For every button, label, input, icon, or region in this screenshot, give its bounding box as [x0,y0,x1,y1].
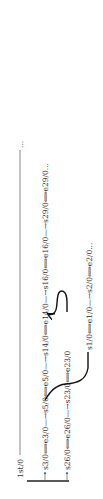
double-arrow-icon: ⟺ [85,266,94,277]
root-label: 1st/0 [16,459,25,478]
double-arrow-icon: ⟺ [63,438,72,449]
node-e2: e2/0... [85,243,94,267]
node-e16: e16/0 [41,236,50,258]
root-row: 1st/0 [16,459,25,478]
arrow-icon: —→ [85,293,94,307]
link-e23-to-s14 [48,291,67,315]
svg-text:s1/0⟺e1/0—→s2/0⟺e2/0...: s1/0⟺e1/0—→s2/0⟺e2/0... [85,243,94,350]
arrow-icon: —→ [63,403,72,417]
row-1: s3/0⟺e3/0—→s5/0⟺e5/0—→s14/0⟺e14/0—→s16/0… [41,163,50,470]
node-s2: s2/0 [85,277,94,293]
diagram-canvas: 1st/0 ... s3/0⟺e3/0—→s5/0⟺e5/0—→s14/0⟺e1… [0,0,103,499]
arrow-icon: —→ [41,413,50,427]
node-e1: e1/0 [85,307,94,324]
root-ellipsis: ... [16,141,25,148]
double-arrow-icon: ⟺ [41,443,50,454]
node-e23: e23/0 [63,350,72,372]
double-arrow-icon: ⟺ [85,323,94,334]
node-s3: s3/0 [41,454,50,470]
node-s23: s23/0 [63,383,72,404]
arrow-icon: —→ [41,289,50,303]
arrow-icon: —→ [41,223,50,237]
double-arrow-icon: ⟺ [41,258,50,269]
arrow-icon: —→ [41,356,50,370]
node-s16: s16/0 [41,269,50,290]
double-arrow-icon: ⟺ [63,372,72,383]
node-e5: e5/0 [41,370,50,387]
node-s26: s26/0 [63,449,72,470]
node-s29: s29/0 [41,202,50,223]
svg-text:s26/0⟺e26/0—→s23/0⟺e23/0: s26/0⟺e26/0—→s23/0⟺e23/0 [63,350,72,470]
double-arrow-icon: ⟺ [41,324,50,335]
node-e3: e3/0 [41,427,50,444]
svg-text:s3/0⟺e3/0—→s5/0⟺e5/0—→s14/0⟺e1: s3/0⟺e3/0—→s5/0⟺e5/0—→s14/0⟺e14/0—→s16/0… [41,163,50,470]
node-s14: s14/0 [41,335,50,356]
double-arrow-icon: ⟺ [41,191,50,202]
row-3: s1/0⟺e1/0—→s2/0⟺e2/0... [85,243,94,350]
node-s1: s1/0 [85,334,94,350]
node-e26: e26/0 [63,417,72,439]
node-e29: e29/0... [41,163,50,191]
row-2: s26/0⟺e26/0—→s23/0⟺e23/0 [63,350,72,470]
